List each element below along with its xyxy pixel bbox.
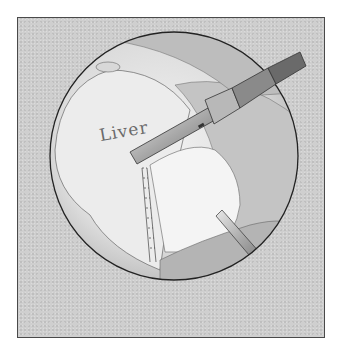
- liver-resection-illustration: [0, 0, 344, 352]
- main-view-circle: [50, 30, 300, 290]
